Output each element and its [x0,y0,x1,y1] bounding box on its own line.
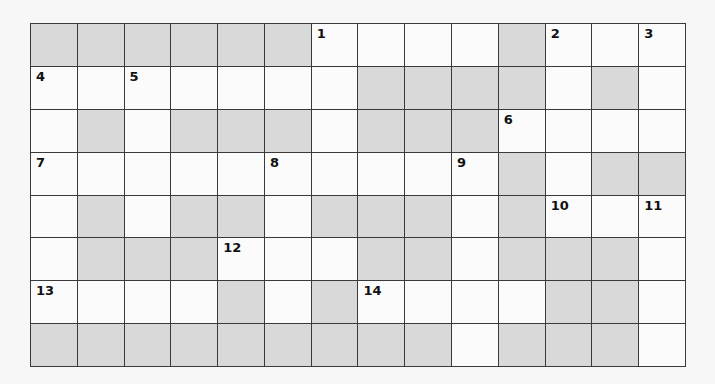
block-cell [265,24,312,67]
block-cell [171,110,218,153]
block-cell [265,110,312,153]
block-cell [78,110,125,153]
answer-cell[interactable] [405,281,452,324]
answer-cell[interactable] [639,324,686,367]
answer-cell[interactable] [31,238,78,281]
answer-cell[interactable] [639,281,686,324]
block-cell [218,110,265,153]
answer-cell[interactable]: 12 [218,238,265,281]
clue-number: 14 [363,284,381,297]
block-cell [358,67,405,110]
block-cell [358,196,405,239]
answer-cell[interactable] [31,196,78,239]
answer-cell[interactable] [265,281,312,324]
answer-cell[interactable] [171,153,218,196]
answer-cell[interactable] [639,110,686,153]
clue-number: 7 [36,156,45,169]
block-cell [639,153,686,196]
answer-cell[interactable] [218,153,265,196]
answer-cell[interactable]: 6 [499,110,546,153]
answer-cell[interactable] [171,67,218,110]
block-cell [31,324,78,367]
block-cell [78,24,125,67]
answer-cell[interactable] [452,196,499,239]
answer-cell[interactable]: 10 [546,196,593,239]
answer-cell[interactable] [358,24,405,67]
block-cell [312,281,359,324]
answer-cell[interactable] [499,281,546,324]
answer-cell[interactable] [125,153,172,196]
block-cell [125,324,172,367]
answer-cell[interactable] [218,67,265,110]
answer-cell[interactable]: 8 [265,153,312,196]
answer-cell[interactable] [358,153,405,196]
answer-cell[interactable] [592,110,639,153]
clue-number: 9 [457,156,466,169]
answer-cell[interactable] [546,153,593,196]
block-cell [592,238,639,281]
answer-cell[interactable]: 3 [639,24,686,67]
block-cell [171,196,218,239]
answer-cell[interactable] [546,110,593,153]
answer-cell[interactable] [265,67,312,110]
clue-number: 6 [504,113,513,126]
block-cell [218,24,265,67]
answer-cell[interactable]: 7 [31,153,78,196]
block-cell [592,67,639,110]
answer-cell[interactable] [312,153,359,196]
answer-cell[interactable] [639,238,686,281]
answer-cell[interactable] [405,24,452,67]
block-cell [78,238,125,281]
block-cell [452,110,499,153]
answer-cell[interactable]: 9 [452,153,499,196]
clue-number: 3 [644,27,653,40]
answer-cell[interactable]: 2 [546,24,593,67]
answer-cell[interactable] [171,281,218,324]
crossword-grid: 1234567891011121314 [30,23,686,367]
answer-cell[interactable] [405,153,452,196]
answer-cell[interactable] [265,238,312,281]
clue-number: 5 [130,70,139,83]
block-cell [218,196,265,239]
answer-cell[interactable] [452,24,499,67]
block-cell [405,196,452,239]
clue-number: 11 [644,199,662,212]
answer-cell[interactable] [546,67,593,110]
block-cell [171,24,218,67]
answer-cell[interactable] [265,196,312,239]
answer-cell[interactable] [125,110,172,153]
answer-cell[interactable] [125,281,172,324]
answer-cell[interactable]: 14 [358,281,405,324]
block-cell [358,238,405,281]
clue-number: 13 [36,284,54,297]
answer-cell[interactable] [31,110,78,153]
answer-cell[interactable]: 5 [125,67,172,110]
block-cell [546,281,593,324]
block-cell [78,324,125,367]
answer-cell[interactable]: 4 [31,67,78,110]
clue-number: 12 [223,241,241,254]
answer-cell[interactable]: 13 [31,281,78,324]
answer-cell[interactable] [78,281,125,324]
answer-cell[interactable]: 11 [639,196,686,239]
answer-cell[interactable] [452,238,499,281]
answer-cell[interactable] [312,67,359,110]
answer-cell[interactable] [312,238,359,281]
answer-cell[interactable] [452,324,499,367]
answer-cell[interactable] [78,153,125,196]
answer-cell[interactable] [125,196,172,239]
clue-number: 10 [551,199,569,212]
block-cell [125,24,172,67]
answer-cell[interactable] [78,67,125,110]
block-cell [312,196,359,239]
block-cell [405,324,452,367]
answer-cell[interactable] [312,110,359,153]
answer-cell[interactable] [452,281,499,324]
block-cell [499,67,546,110]
answer-cell[interactable]: 1 [312,24,359,67]
clue-number: 4 [36,70,45,83]
answer-cell[interactable] [639,67,686,110]
answer-cell[interactable] [592,196,639,239]
block-cell [499,153,546,196]
answer-cell[interactable] [592,24,639,67]
